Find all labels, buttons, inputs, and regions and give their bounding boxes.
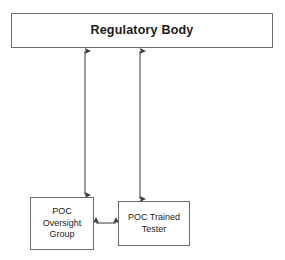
node-regulatory-body[interactable]: Regulatory Body — [11, 13, 273, 48]
node-poc-trained-tester[interactable]: POC Trained Tester — [118, 201, 190, 246]
node-regulatory-body-label: Regulatory Body — [90, 25, 193, 37]
diagram-canvas: Regulatory Body POC Oversight Group POC … — [0, 0, 285, 260]
node-poc-trained-tester-label: POC Trained Tester — [128, 212, 180, 235]
node-poc-oversight-group-label: POC Oversight Group — [43, 206, 82, 241]
node-poc-oversight-group[interactable]: POC Oversight Group — [30, 197, 94, 250]
